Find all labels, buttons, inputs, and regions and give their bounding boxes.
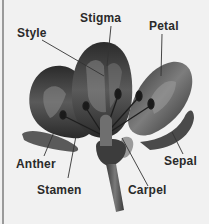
stem bbox=[106, 164, 124, 212]
label-anther: Anther bbox=[16, 158, 56, 170]
label-stigma: Stigma bbox=[80, 12, 121, 24]
label-carpel: Carpel bbox=[128, 184, 167, 196]
label-stamen: Stamen bbox=[37, 184, 82, 196]
label-sepal: Sepal bbox=[164, 155, 197, 167]
flower-diagram: Stigma Style Petal Anther Stamen Carpel … bbox=[0, 0, 209, 224]
label-style: Style bbox=[17, 27, 47, 39]
label-petal: Petal bbox=[149, 20, 179, 32]
